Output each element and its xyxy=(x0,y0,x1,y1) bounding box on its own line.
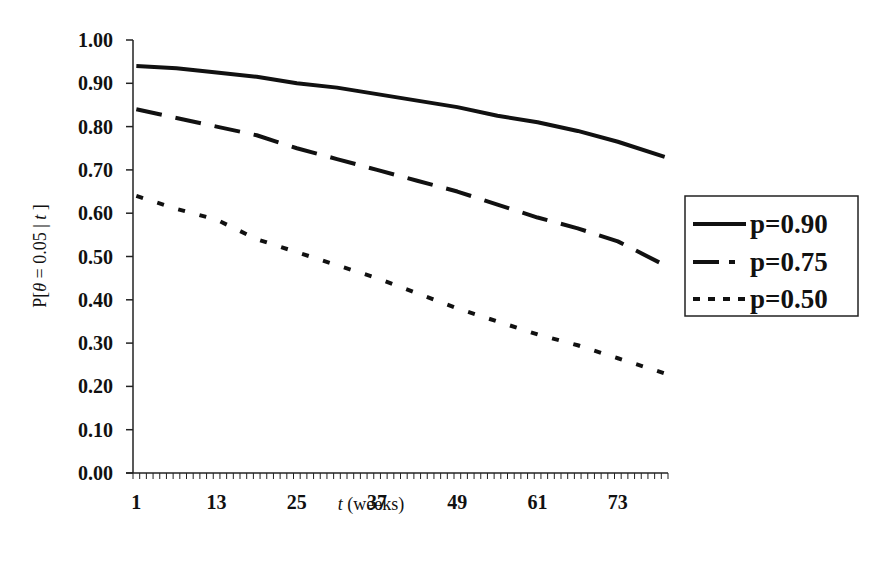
y-tick-label: 0.40 xyxy=(78,289,113,311)
legend-label: p=0.50 xyxy=(750,284,828,314)
y-tick-label: 0.70 xyxy=(78,159,113,181)
y-tick-label: 0.10 xyxy=(78,419,113,441)
y-tick-label: 0.20 xyxy=(78,375,113,397)
y-tick-label: 0.00 xyxy=(78,462,113,484)
y-tick-label: 0.90 xyxy=(78,72,113,94)
y-axis: 0.000.100.200.300.400.500.600.700.800.90… xyxy=(78,29,133,484)
series-line-p050 xyxy=(136,196,664,374)
y-tick-label: 1.00 xyxy=(78,29,113,51)
legend: p=0.90 p=0.75 p=0.50 xyxy=(685,196,858,316)
x-tick-label: 49 xyxy=(447,491,467,513)
y-tick-label: 0.50 xyxy=(78,246,113,268)
x-tick-label: 1 xyxy=(131,491,141,513)
y-tick-label: 0.80 xyxy=(78,116,113,138)
legend-label: p=0.75 xyxy=(750,247,828,277)
x-tick-label: 25 xyxy=(287,491,307,513)
x-tick-label: 13 xyxy=(207,491,227,513)
x-axis-title: t (weeks) xyxy=(338,494,405,515)
y-tick-label: 0.60 xyxy=(78,202,113,224)
line-chart: 0.000.100.200.300.400.500.600.700.800.90… xyxy=(0,0,869,577)
x-tick-label: 73 xyxy=(608,491,628,513)
legend-label: p=0.90 xyxy=(750,209,828,239)
x-tick-label: 61 xyxy=(528,491,548,513)
y-axis-title: P[θ = 0.05 | t ] xyxy=(30,204,50,308)
series-line-p090 xyxy=(136,66,664,157)
y-tick-label: 0.30 xyxy=(78,332,113,354)
plot-lines xyxy=(136,66,664,373)
